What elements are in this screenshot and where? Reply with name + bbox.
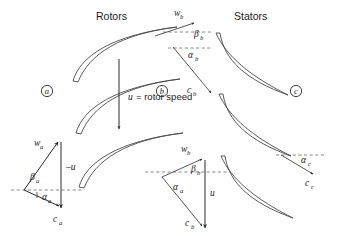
figure-root: Rotors Stators u = rotor speed a b xyxy=(0,0,339,236)
label-alpha-c-sub: c xyxy=(308,160,311,167)
label-minus-u: –u xyxy=(65,162,76,172)
rotor-speed-symbol: u xyxy=(128,92,133,102)
label-u-mid: u xyxy=(210,188,215,198)
velocity-triangle-diagram: Rotors Stators u = rotor speed a b xyxy=(0,0,339,236)
label-c-c-sub: c xyxy=(311,183,314,190)
header-stators: Stators xyxy=(234,10,267,22)
station-b-letter: b xyxy=(160,86,165,96)
station-c-letter: c xyxy=(294,86,298,96)
label-beta-b-top: β xyxy=(193,29,199,39)
station-a-letter: a xyxy=(45,86,49,96)
label-beta-b-bottom: β xyxy=(190,164,196,174)
header-rotors: Rotors xyxy=(96,10,127,22)
label-beta-a: β xyxy=(29,172,35,182)
